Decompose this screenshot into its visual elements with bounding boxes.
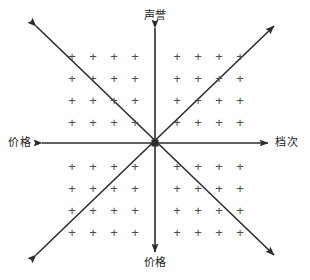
plus-mark: +: [68, 225, 76, 240]
plus-mark: +: [131, 181, 139, 196]
plus-mark: +: [173, 159, 181, 174]
plus-mark: +: [236, 203, 244, 218]
plus-mark: +: [131, 225, 139, 240]
plus-mark: +: [194, 225, 202, 240]
plus-mark: +: [131, 71, 139, 86]
origin-dot: [152, 140, 159, 147]
plus-mark: +: [194, 71, 202, 86]
plus-mark: +: [110, 225, 118, 240]
plus-mark: +: [110, 71, 118, 86]
plus-mark: +: [89, 93, 97, 108]
plus-mark: +: [89, 71, 97, 86]
plus-mark: +: [110, 203, 118, 218]
plus-mark: +: [194, 93, 202, 108]
plus-mark: +: [236, 93, 244, 108]
plus-mark: +: [110, 159, 118, 174]
plus-mark: +: [173, 115, 181, 130]
plus-mark: +: [236, 225, 244, 240]
plus-mark: +: [68, 181, 76, 196]
plus-mark: +: [215, 159, 223, 174]
plus-mark: +: [131, 93, 139, 108]
quadrant-diagram: ++++++++++++++++++++++++++++++++++++++++…: [0, 0, 310, 280]
plus-mark: +: [173, 225, 181, 240]
axis-label-left: 价格: [8, 136, 31, 149]
plus-mark: +: [110, 181, 118, 196]
plus-mark: +: [173, 49, 181, 64]
plus-mark: +: [110, 49, 118, 64]
plus-mark: +: [236, 181, 244, 196]
plus-mark: +: [194, 159, 202, 174]
plus-mark: +: [194, 203, 202, 218]
plus-mark: +: [236, 159, 244, 174]
plus-mark: +: [215, 49, 223, 64]
plus-mark: +: [194, 115, 202, 130]
plus-mark: +: [68, 159, 76, 174]
plus-mark: +: [173, 181, 181, 196]
plus-mark: +: [215, 93, 223, 108]
plus-mark: +: [173, 93, 181, 108]
plus-mark: +: [110, 93, 118, 108]
plus-mark: +: [215, 225, 223, 240]
diagram-canvas: ++++++++++++++++++++++++++++++++++++++++…: [0, 0, 310, 280]
plus-mark: +: [89, 159, 97, 174]
plus-mark: +: [89, 225, 97, 240]
plus-mark: +: [89, 203, 97, 218]
plus-mark: +: [131, 115, 139, 130]
plus-mark: +: [68, 49, 76, 64]
plus-mark: +: [236, 71, 244, 86]
plus-mark: +: [131, 159, 139, 174]
plus-mark: +: [89, 115, 97, 130]
plus-mark: +: [110, 115, 118, 130]
plus-mark: +: [173, 203, 181, 218]
plus-mark: +: [131, 203, 139, 218]
axis-label-right: 档次: [275, 136, 298, 149]
axis-label-top: 声誉: [0, 9, 310, 22]
plus-mark: +: [68, 71, 76, 86]
plus-mark: +: [236, 115, 244, 130]
plus-mark: +: [68, 115, 76, 130]
plus-mark: +: [89, 181, 97, 196]
axis-label-bottom: 价格: [0, 256, 310, 269]
plus-mark: +: [215, 71, 223, 86]
origin-marker: [152, 140, 159, 147]
plus-mark: +: [131, 49, 139, 64]
plus-mark: +: [89, 49, 97, 64]
plus-mark: +: [68, 93, 76, 108]
plus-mark: +: [215, 181, 223, 196]
plus-mark: +: [68, 203, 76, 218]
plus-mark: +: [194, 49, 202, 64]
plus-mark: +: [173, 71, 181, 86]
plus-mark: +: [236, 49, 244, 64]
plus-mark: +: [215, 115, 223, 130]
plus-mark: +: [215, 203, 223, 218]
plus-mark: +: [194, 181, 202, 196]
